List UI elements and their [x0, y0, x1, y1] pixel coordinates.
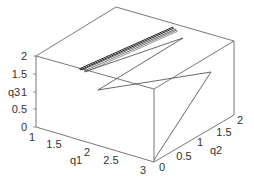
z-tick-0.5: 0.5	[12, 103, 27, 115]
z-tick-1: 1	[21, 86, 27, 98]
x-tick-1.5: 1.5	[46, 138, 61, 150]
x-tick-2: 2	[84, 146, 90, 158]
z-axis-label: q3	[8, 86, 20, 98]
y-tick-2: 2	[237, 114, 243, 126]
x-tick-2.5: 2.5	[103, 154, 118, 166]
y-tick-0.5: 0.5	[176, 150, 191, 162]
z-tick-2: 2	[21, 50, 27, 62]
z-tick-0: 0	[21, 121, 27, 133]
z-tick-1.5: 1.5	[12, 68, 27, 80]
y-tick-1.5: 1.5	[216, 126, 231, 138]
z-axis-ticks	[33, 56, 36, 127]
plot-canvas: 0 0.5 1 1.5 2 q3 1 1.5 2 2.5 3 q1 0 0.5 …	[0, 0, 254, 180]
y-tick-1: 1	[197, 136, 203, 148]
3d-line-plot: 0 0.5 1 1.5 2 q3 1 1.5 2 2.5 3 q1 0 0.5 …	[0, 0, 254, 180]
x-tick-1: 1	[29, 131, 35, 143]
x-tick-3: 3	[140, 164, 146, 176]
x-axis-label: q1	[70, 154, 82, 166]
y-axis-label: q2	[210, 144, 222, 156]
y-tick-0: 0	[159, 161, 165, 173]
